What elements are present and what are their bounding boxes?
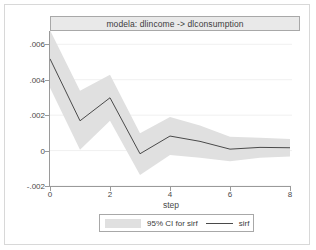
y-axis-line — [49, 31, 50, 187]
plot-canvas — [50, 31, 300, 186]
y-tick-mark — [45, 44, 49, 45]
x-axis-title: step — [50, 200, 292, 210]
x-tick-label: 0 — [48, 190, 52, 199]
y-axis-ticks: .006.004.0020-.002 — [0, 0, 45, 250]
y-tick-label: .006 — [29, 40, 45, 49]
x-tick-mark — [50, 187, 51, 191]
x-tick-label: 6 — [228, 190, 232, 199]
y-tick-mark — [45, 151, 49, 152]
y-tick-label: .002 — [29, 111, 45, 120]
y-tick-mark — [45, 80, 49, 81]
plot-area — [50, 31, 300, 186]
x-tick-label: 2 — [108, 190, 112, 199]
y-tick-label: -.002 — [27, 182, 45, 191]
legend-ci-swatch — [105, 219, 141, 228]
legend-sirf-line-sample — [206, 223, 233, 224]
x-tick-label: 8 — [288, 190, 292, 199]
y-tick-mark — [45, 186, 49, 187]
x-tick-mark — [110, 187, 111, 191]
ci-band — [50, 31, 290, 175]
chart-title-bar: modela: dlincome -> dlconsumption — [50, 16, 300, 31]
x-tick-mark — [170, 187, 171, 191]
chart-title: modela: dlincome -> dlconsumption — [106, 19, 243, 29]
y-tick-mark — [45, 115, 49, 116]
y-tick-label: .004 — [29, 75, 45, 84]
x-tick-label: 4 — [168, 190, 172, 199]
chart-legend: 95% CI for sirf sirf — [99, 214, 254, 232]
x-tick-mark — [290, 187, 291, 191]
legend-ci-label: 95% CI for sirf — [147, 219, 198, 228]
x-tick-mark — [230, 187, 231, 191]
legend-sirf-label: sirf — [239, 219, 250, 228]
graph-page: modela: dlincome -> dlconsumption .006.0… — [0, 0, 316, 250]
